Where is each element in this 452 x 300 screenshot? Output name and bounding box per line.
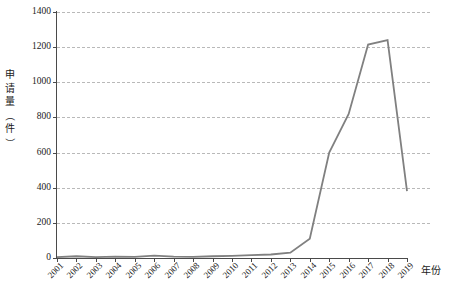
y-axis-title-char: 件 — [2, 122, 17, 136]
y-axis-tick-label: 1000 — [32, 78, 51, 88]
y-axis-title-char: 申 — [2, 68, 17, 82]
series-line-申请量 — [57, 12, 409, 262]
y-axis-title: 申请量（件） — [2, 68, 17, 149]
x-axis-title: 年份 — [421, 266, 441, 276]
plot-area — [57, 12, 407, 258]
data-line — [57, 40, 407, 257]
y-axis-tick-label: 400 — [37, 183, 51, 193]
y-axis-title-char: 量 — [2, 95, 17, 109]
y-axis-title-char: （ — [3, 108, 17, 123]
y-axis-title-char: 请 — [2, 82, 17, 96]
y-axis-tick-label: 1400 — [32, 7, 51, 17]
y-axis-tick-label: 800 — [37, 113, 51, 123]
y-axis-tick-label: 200 — [37, 218, 51, 228]
line-chart: 申请量（件） 0200400600800100012001400 2001200… — [0, 0, 452, 300]
y-axis-tick-label: 1200 — [32, 42, 51, 52]
figure-caption — [0, 292, 452, 300]
y-axis-tick-label: 600 — [37, 148, 51, 158]
y-axis-tick-label: 0 — [46, 253, 51, 263]
y-axis-title-char: ） — [3, 135, 17, 150]
